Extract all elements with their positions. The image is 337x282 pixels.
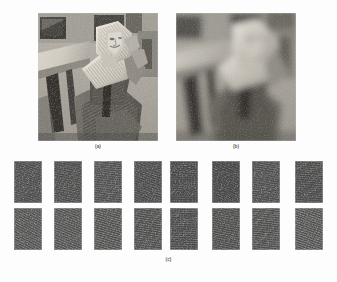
texture-patch-image (252, 161, 280, 203)
panel-a-caption: (a) (38, 144, 158, 150)
texture-patch-image (14, 208, 42, 250)
texture-patch (252, 161, 280, 203)
texture-patch-image (94, 161, 122, 203)
texture-patch-grid (0, 158, 337, 256)
texture-patch (94, 161, 122, 203)
texture-patch-image (252, 208, 280, 250)
panel-b-description: blurred low-resolution version of the Ba… (0, 0, 1, 1)
barbara-original-image (38, 13, 158, 141)
texture-patch (54, 161, 82, 203)
texture-patch-image (14, 161, 42, 203)
barbara-blurred-image (176, 13, 296, 141)
panel-a-description: original grayscale Barbara test image (0, 0, 1, 1)
texture-patch-image (212, 161, 240, 203)
texture-patch (212, 208, 240, 250)
texture-patch-image (170, 208, 198, 250)
texture-patch-image (295, 208, 323, 250)
texture-patch (295, 208, 323, 250)
texture-patch-image (170, 161, 198, 203)
figure-root: (a) (0, 0, 337, 282)
texture-patch (134, 208, 162, 250)
texture-patch-image (134, 208, 162, 250)
texture-patch (94, 208, 122, 250)
texture-patch (54, 208, 82, 250)
texture-patch (170, 208, 198, 250)
texture-patch (134, 161, 162, 203)
texture-patch (212, 161, 240, 203)
panel-b-blurred-image: (b) (176, 13, 296, 141)
texture-patch-image (295, 161, 323, 203)
texture-patch-image (212, 208, 240, 250)
panel-a-original-image: (a) (38, 13, 158, 141)
texture-patch (295, 161, 323, 203)
texture-patch-image (94, 208, 122, 250)
panel-c-patch-grid: (c) (0, 158, 337, 276)
panel-b-caption: (b) (176, 144, 296, 150)
texture-patch-image (54, 208, 82, 250)
panel-c-caption: (c) (0, 257, 337, 263)
texture-patch (14, 208, 42, 250)
texture-patch (14, 161, 42, 203)
texture-patch (170, 161, 198, 203)
texture-patch (252, 208, 280, 250)
texture-patch-image (134, 161, 162, 203)
panel-c-description: grid of extracted dark textured image pa… (0, 0, 1, 1)
texture-patch-image (54, 161, 82, 203)
